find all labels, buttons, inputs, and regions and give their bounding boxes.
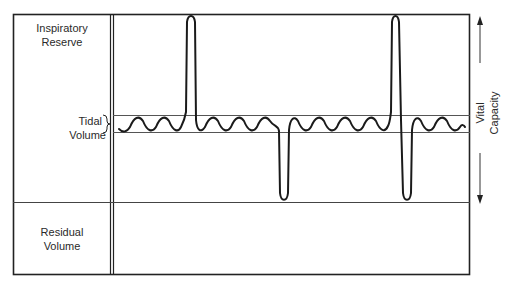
label-line: Inspiratory xyxy=(14,21,110,35)
inspiratory-reserve-label: Inspiratory Reserve xyxy=(14,21,110,49)
label-line: Residual xyxy=(14,225,110,239)
label-line: Reserve xyxy=(14,35,110,49)
label-line: Tidal xyxy=(60,114,106,128)
residual-volume-label: Residual Volume xyxy=(14,225,110,253)
tidal-volume-label: Tidal Volume xyxy=(60,114,106,142)
label-line: Capacity xyxy=(487,63,501,163)
label-line: Volume xyxy=(60,128,106,142)
label-line: Volume xyxy=(14,239,110,253)
breathing-trace xyxy=(119,16,465,200)
arrow-down-icon xyxy=(477,195,483,204)
vital-capacity-label: Vital Capacity xyxy=(473,63,501,163)
label-line: Vital xyxy=(473,63,487,163)
arrow-up-icon xyxy=(477,16,483,25)
